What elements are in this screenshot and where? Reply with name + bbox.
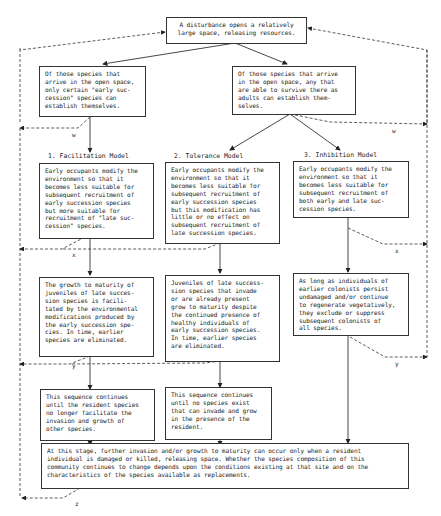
tag-z: z: [75, 500, 79, 507]
tag-x-left: x: [72, 251, 76, 258]
tag-y-right: y: [395, 360, 399, 367]
tag-y-left: y: [72, 362, 76, 369]
facilitation-step3-box: This sequence continues until the reside…: [40, 389, 155, 441]
facilitation-step1-box: Early occupants modify the environment s…: [39, 163, 154, 239]
tolerance-step3-box: This sequence continues until no species…: [165, 387, 272, 440]
tag-w-right: w: [392, 127, 396, 134]
any-species-box: Of those species that arrive in the open…: [232, 66, 356, 115]
final-stage-box: At this stage, further invasion and/or g…: [41, 443, 409, 489]
tag-w-left: w: [72, 131, 76, 138]
early-succession-only-box: Of those species that arrive in the open…: [39, 66, 146, 117]
tag-x-right: x: [395, 247, 399, 254]
tolerance-step2-box: Juveniles of late success- sion species …: [165, 275, 280, 362]
facilitation-model-title: 1. Facilitation Model: [48, 152, 129, 160]
tolerance-step1-box: Early occupants modify the environment s…: [165, 162, 280, 244]
inhibition-model-title: 3. Inhibition Model: [304, 151, 377, 159]
inhibition-step1-box: Early occupants modify the environment s…: [293, 161, 409, 218]
disturbance-box: A disturbance opens a relatively large s…: [166, 17, 307, 44]
inhibition-step2-box: As long as individuals of earlier coloni…: [293, 273, 409, 336]
tolerance-model-title: 2. Tolerance Model: [174, 152, 243, 160]
facilitation-step2-box: The growth to maturity of juveniles of l…: [39, 277, 154, 357]
